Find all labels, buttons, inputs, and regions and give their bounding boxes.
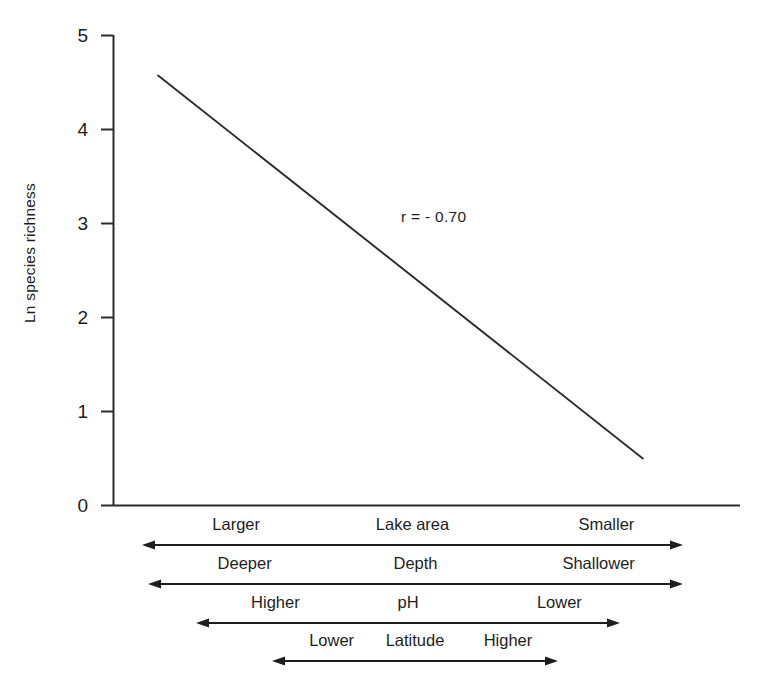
double-arrow-icon — [148, 576, 683, 592]
gradient-axis-latitude: Lower Latitude Higher — [272, 632, 558, 672]
gradient-labels: Higher pH Lower — [196, 594, 620, 616]
trend-line — [158, 76, 643, 459]
gradient-right-label-ph: Lower — [537, 594, 582, 611]
double-arrow-icon — [272, 653, 558, 669]
correlation-annotation: r = - 0.70 — [401, 208, 466, 226]
gradient-right-label-latitude: Higher — [484, 632, 533, 649]
gradient-center-label-latitude: Latitude — [386, 632, 445, 649]
gradient-right-label-lake-area: Smaller — [578, 516, 634, 533]
gradient-center-label-ph: pH — [397, 594, 418, 611]
gradient-left-label-ph: Higher — [251, 594, 300, 611]
gradient-labels: Deeper Depth Shallower — [148, 555, 683, 577]
gradient-left-label-depth: Deeper — [218, 555, 272, 572]
gradient-axis-ph: Higher pH Lower — [196, 594, 620, 634]
double-arrow-icon — [196, 615, 620, 631]
gradient-labels: Larger Lake area Smaller — [142, 516, 683, 538]
gradient-axis-lake-area: Larger Lake area Smaller — [142, 516, 683, 556]
gradient-left-label-latitude: Lower — [309, 632, 354, 649]
gradient-left-label-lake-area: Larger — [212, 516, 260, 533]
gradient-axis-depth: Deeper Depth Shallower — [148, 555, 683, 595]
chart-page: Ln species richness 5 4 3 2 1 0 r = - 0.… — [0, 0, 759, 692]
gradient-center-label-lake-area: Lake area — [376, 516, 449, 533]
gradient-center-label-depth: Depth — [393, 555, 437, 572]
gradient-right-label-depth: Shallower — [562, 555, 634, 572]
gradient-labels: Lower Latitude Higher — [272, 632, 558, 654]
double-arrow-icon — [142, 537, 683, 553]
